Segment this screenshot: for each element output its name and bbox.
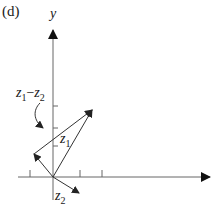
- vector-diagram: (d) y z1 z2 z1−z2: [0, 0, 214, 205]
- panel-label: (d): [2, 3, 20, 20]
- y-axis-label: y: [48, 6, 57, 21]
- z1-label: z1: [59, 131, 70, 149]
- z2-label: z2: [54, 188, 65, 205]
- z1-minus-z2-label: z1−z2: [15, 85, 45, 103]
- x-axis: [18, 170, 210, 177]
- vector-z1-minus-z2: [34, 154, 53, 177]
- vector-z1: [53, 110, 92, 177]
- curved-pointer-arrow: [35, 103, 43, 128]
